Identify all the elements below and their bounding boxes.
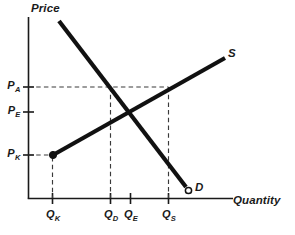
y-tick-label-pa: PA (0, 79, 20, 91)
x-tick-label-qk: QK (46, 208, 60, 220)
y-tick-label-pk: PK (0, 147, 20, 159)
y-tick-label-pe: PE (0, 104, 20, 116)
supply-endpoint-filled-dot (49, 151, 56, 158)
x-tick-label-qk-base: Q (46, 208, 55, 220)
supply-demand-chart: Price Quantity PA PE PK QK QD QE QS S D (0, 0, 295, 235)
x-tick-label-qd-base: Q (104, 208, 113, 220)
y-tick-label-pk-sub: K (15, 153, 20, 162)
x-tick-label-qs-base: Q (162, 208, 171, 220)
x-tick-label-qd: QD (104, 208, 118, 220)
x-tick-label-qd-sub: D (113, 214, 118, 223)
x-tick-label-qs: QS (162, 208, 176, 220)
demand-curve-label: D (195, 181, 203, 193)
y-tick-label-pe-sub: E (15, 110, 20, 119)
axis-group (28, 17, 233, 199)
demand-curve-group (59, 21, 192, 194)
y-tick-label-pa-base: P (7, 79, 14, 91)
y-tick-label-pe-base: P (8, 104, 15, 116)
x-tick-label-qe-base: Q (124, 208, 133, 220)
supply-curve-label: S (228, 47, 236, 59)
x-axis-title: Quantity (233, 194, 280, 206)
x-tick-label-qs-sub: S (171, 214, 176, 223)
demand-endpoint-open-circle (185, 187, 191, 193)
x-tick-label-qe-sub: E (133, 214, 138, 223)
y-tick-label-pa-sub: A (15, 85, 20, 94)
supply-curve-group (49, 58, 225, 159)
x-tick-label-qe: QE (124, 208, 138, 220)
y-axis-title: Price (31, 2, 60, 14)
demand-curve (59, 21, 186, 187)
supply-curve (53, 58, 225, 155)
x-tick-label-qk-sub: K (55, 214, 60, 223)
y-tick-label-pk-base: P (7, 147, 14, 159)
